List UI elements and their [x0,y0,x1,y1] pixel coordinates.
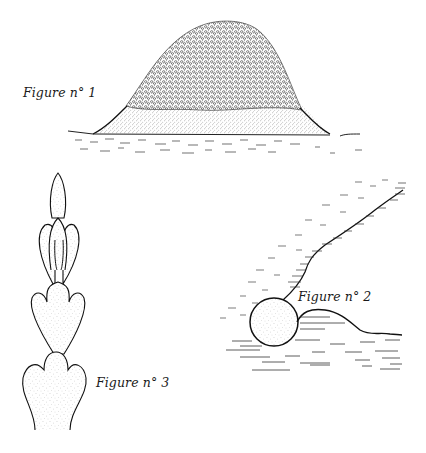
boulder [250,298,298,346]
bank-wave-line [297,310,402,336]
slope-upper-line [283,190,403,300]
figure-3-lobes [23,173,87,430]
mound-ground-dashes [75,139,362,153]
figure-1-mound [68,21,362,153]
mound-dome [126,21,302,110]
lobe-tier3 [23,352,87,430]
figure-3-label: Figure n° 3 [96,375,169,390]
lobe-top [50,173,65,218]
figure-1-label: Figure n° 1 [23,85,96,100]
ground-fragment [340,134,360,136]
figure-2-label: Figure n° 2 [298,289,371,304]
figure-2-boulder [220,180,406,370]
lobe-tier2 [31,282,84,354]
illustration-plate [0,0,426,453]
